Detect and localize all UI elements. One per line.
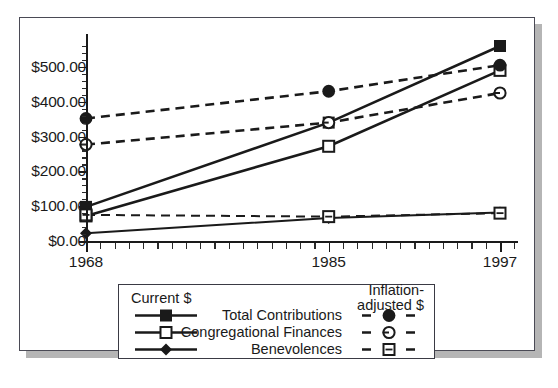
x-tick-minor [314, 243, 315, 249]
legend-row: Benevolences [119, 341, 434, 358]
legend-label: Benevolences [251, 341, 342, 358]
y-tick-minor [82, 220, 86, 221]
legend-swatch-inflation-adjusted [358, 324, 420, 341]
legend-swatch-inflation-adjusted [358, 341, 420, 358]
x-tick-major [86, 243, 88, 252]
x-tick-minor [372, 243, 373, 249]
y-tick-minor [82, 130, 86, 131]
x-tick-minor [272, 243, 273, 249]
x-tick-label: 1997 [483, 253, 517, 271]
y-tick-minor [82, 88, 86, 89]
x-tick-major [329, 243, 331, 252]
legend-row: Total Contributions [119, 307, 434, 324]
legend-header-current: Current $ [131, 291, 191, 306]
legend-swatch-current [133, 307, 199, 324]
y-tick-minor [82, 178, 86, 179]
y-tick-minor [82, 74, 86, 75]
legend-swatch-current [133, 324, 199, 341]
x-tick-minor [257, 243, 258, 249]
x-tick-minor [414, 243, 415, 249]
x-tick-minor [186, 243, 187, 249]
x-tick-minor [115, 243, 116, 249]
y-tick-major [79, 67, 86, 69]
legend-label: Congregational Finances [181, 324, 342, 341]
x-tick-minor [514, 243, 515, 249]
x-tick-minor [400, 243, 401, 249]
x-tick-major [500, 243, 502, 252]
y-tick-major [79, 171, 86, 173]
y-tick-minor [82, 60, 86, 61]
y-tick-minor [82, 109, 86, 110]
x-tick-minor [143, 243, 144, 249]
x-tick-minor [243, 243, 244, 249]
y-tick-minor [82, 164, 86, 165]
x-tick-minor [172, 243, 173, 249]
x-tick-minor [471, 243, 472, 249]
y-tick-minor [82, 95, 86, 96]
x-tick-minor [357, 243, 358, 249]
x-axis-line [86, 241, 518, 243]
x-tick-minor [343, 243, 344, 249]
x-tick-minor [100, 243, 101, 249]
legend-label: Total Contributions [222, 307, 342, 324]
chart-legend: Current $ Inflation- adjusted $ Total Co… [118, 284, 435, 359]
series-3 [80, 59, 507, 125]
y-tick-minor [82, 234, 86, 235]
y-tick-major [79, 102, 86, 104]
y-tick-minor [82, 185, 86, 186]
x-tick-minor [214, 243, 215, 249]
x-tick-label: 1985 [311, 253, 345, 271]
x-tick-minor [386, 243, 387, 249]
legend-header-inflation-line1: Inflation- [357, 283, 424, 298]
screenshot-root: $0.00$100.00$200.00$300.00$400.00$500.00… [0, 0, 558, 388]
y-tick-minor [82, 199, 86, 200]
y-tick-minor [82, 116, 86, 117]
x-tick-minor [129, 243, 130, 249]
y-tick-minor [82, 144, 86, 145]
y-tick-major [79, 241, 86, 243]
x-tick-minor [157, 243, 158, 249]
x-tick-minor [229, 243, 230, 249]
x-tick-minor [443, 243, 444, 249]
x-tick-minor [200, 243, 201, 249]
y-tick-minor [82, 192, 86, 193]
y-tick-minor [82, 227, 86, 228]
legend-row: Congregational Finances [119, 324, 434, 341]
y-tick-major [79, 137, 86, 139]
y-tick-minor [82, 53, 86, 54]
y-tick-minor [82, 81, 86, 82]
series-1 [81, 65, 506, 222]
x-tick-minor [486, 243, 487, 249]
y-tick-minor [82, 213, 86, 214]
y-tick-major [79, 206, 86, 208]
x-tick-minor [457, 243, 458, 249]
y-tick-minor [82, 157, 86, 158]
y-axis-line [86, 34, 88, 243]
x-tick-minor [429, 243, 430, 249]
y-tick-minor [82, 150, 86, 151]
x-tick-minor [286, 243, 287, 249]
x-tick-minor [300, 243, 301, 249]
chart-figure-frame: $0.00$100.00$200.00$300.00$400.00$500.00… [19, 17, 535, 351]
legend-swatch-inflation-adjusted [358, 307, 420, 324]
series-2 [80, 206, 506, 239]
x-tick-label: 1968 [69, 253, 103, 271]
y-tick-minor [82, 46, 86, 47]
series-0 [80, 40, 506, 213]
y-tick-minor [82, 123, 86, 124]
legend-swatch-current [133, 341, 199, 358]
